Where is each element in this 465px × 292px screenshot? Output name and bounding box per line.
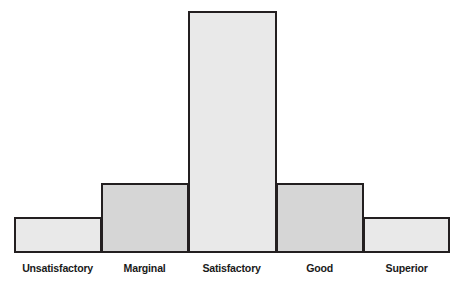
- chart-plot-area: [0, 0, 465, 255]
- bar-unsatisfactory: [14, 217, 102, 253]
- histogram-chart: UnsatisfactoryMarginalSatisfactoryGoodSu…: [0, 0, 465, 292]
- axis-label-marginal: Marginal: [105, 261, 185, 276]
- axis-label-unsatisfactory: Unsatisfactory: [17, 261, 97, 276]
- axis-label-satisfactory: Satisfactory: [192, 261, 272, 276]
- bar-marginal: [101, 183, 189, 253]
- axis-label-superior: Superior: [366, 261, 446, 276]
- category-axis-labels: UnsatisfactoryMarginalSatisfactoryGoodSu…: [0, 261, 465, 281]
- bar-superior: [363, 217, 450, 253]
- bar-satisfactory: [188, 11, 276, 253]
- axis-label-good: Good: [279, 261, 359, 276]
- bar-good: [276, 183, 364, 253]
